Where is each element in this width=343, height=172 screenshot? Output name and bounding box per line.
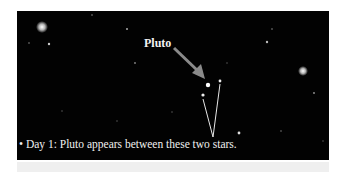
bright-star [36,21,48,33]
star-field-image: Pluto • Day 1: Pluto appears between the… [17,11,329,160]
caption-bullet: • [19,138,23,150]
caption-text: Day 1: Pluto appears between these two s… [26,138,237,150]
caption: • Day 1: Pluto appears between these two… [19,138,237,150]
pointer-line [213,84,220,137]
pluto-label: Pluto [144,36,171,51]
arrow-icon [174,48,198,71]
pluto-dot [206,83,210,87]
bottom-band [17,162,329,172]
pointer-line [203,99,213,137]
reference-star [201,93,204,96]
reference-star [219,80,222,83]
bright-star [298,66,308,76]
